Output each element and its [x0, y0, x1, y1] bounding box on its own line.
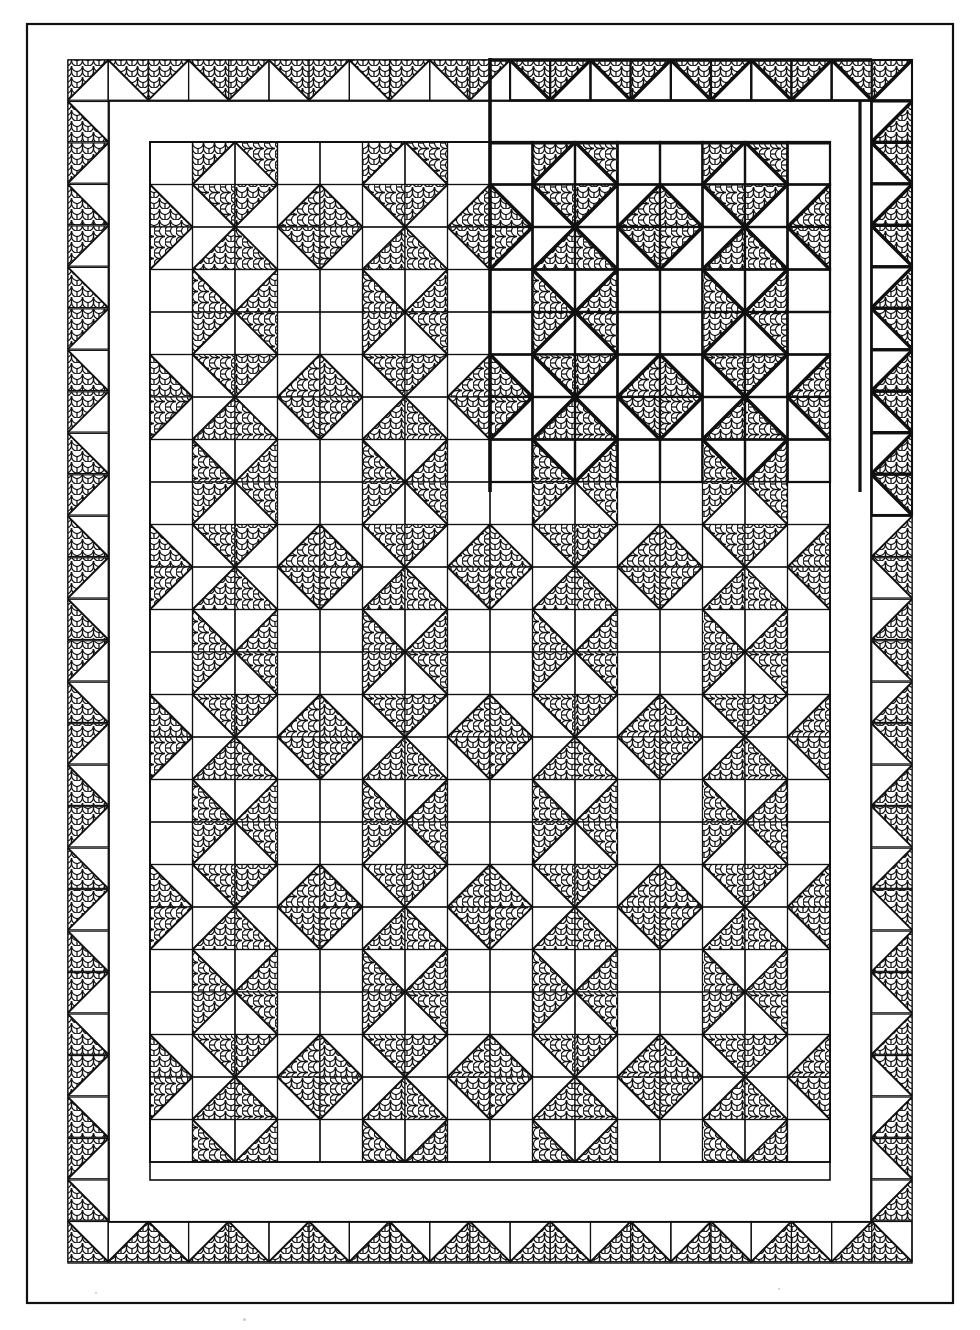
scan-speck: [95, 1292, 97, 1294]
scan-speck: [778, 1288, 780, 1290]
quilt-diagram-svg: [0, 0, 980, 1330]
scan-speck: [243, 1318, 246, 1321]
quilt-diagram-page: [0, 0, 980, 1330]
